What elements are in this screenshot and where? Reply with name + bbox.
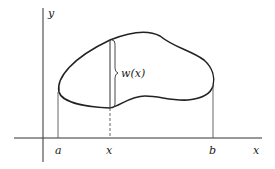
label-width: w(x) [121, 67, 145, 80]
width-brace [112, 40, 118, 108]
label-b: b [209, 144, 216, 157]
y-axis-label: y [47, 7, 55, 20]
label-a: a [55, 144, 62, 157]
label-x: x [106, 144, 113, 157]
x-axis-label: x [253, 144, 260, 157]
region-diagram: y x a x b w(x) [0, 0, 275, 169]
